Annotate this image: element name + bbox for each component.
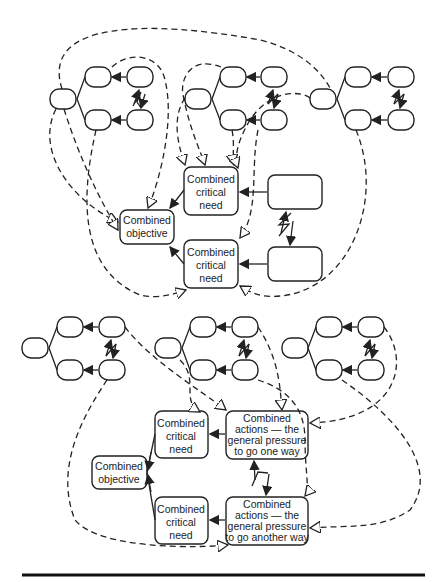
svg-text:critical: critical [166, 516, 196, 528]
top-critical-need-2: Combined critical need [184, 240, 238, 288]
svg-text:Combined: Combined [187, 173, 235, 185]
svg-text:critical: critical [196, 259, 226, 271]
top-combined-objective: Combined objective [120, 210, 174, 244]
svg-text:Combined: Combined [123, 214, 171, 226]
svg-text:critical: critical [166, 430, 196, 442]
svg-text:Combined: Combined [157, 503, 205, 515]
svg-text:need: need [169, 529, 193, 541]
top-blank-box-2 [268, 247, 322, 281]
diagram-canvas: Combined objective Combined critical nee… [0, 0, 445, 582]
cluster-top-middle [185, 67, 287, 130]
svg-text:critical: critical [196, 186, 226, 198]
bottom-combined-objective: Combined objective [92, 456, 147, 489]
bottom-actions-another-way: Combined actions — the general pressure … [225, 497, 309, 545]
cluster-top-right [310, 67, 414, 130]
bottom-critical-need-1: Combined critical need [155, 411, 208, 458]
svg-text:need: need [199, 199, 223, 211]
top-blank-box-1 [268, 175, 322, 209]
svg-text:objective: objective [98, 473, 140, 485]
cluster-bottom-left [22, 317, 125, 380]
svg-text:Combined: Combined [157, 417, 205, 429]
svg-text:need: need [199, 272, 223, 284]
cluster-bottom-right [282, 317, 384, 380]
svg-text:Combined: Combined [187, 246, 235, 258]
svg-text:Combined: Combined [95, 460, 143, 472]
svg-text:need: need [169, 443, 193, 455]
svg-text:to go another way: to go another way [225, 531, 309, 543]
bottom-critical-need-2: Combined critical need [155, 497, 208, 544]
cluster-top-left [50, 67, 153, 130]
top-critical-need-1: Combined critical need [184, 167, 238, 215]
svg-text:objective: objective [126, 227, 168, 239]
svg-text:to go one way: to go one way [234, 445, 300, 457]
bottom-actions-one-way: Combined actions — the general pressure … [226, 411, 308, 459]
